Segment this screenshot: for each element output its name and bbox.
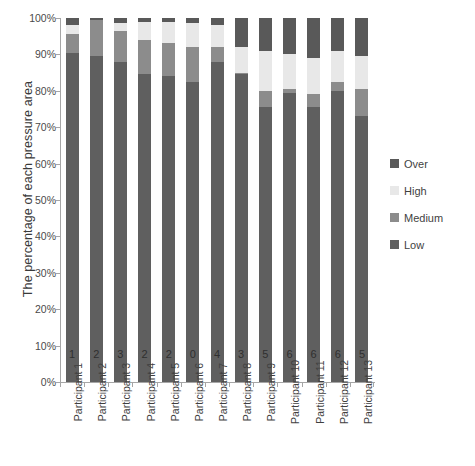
bar-column: 5	[253, 18, 277, 382]
bar-segment-high	[114, 23, 127, 30]
y-axis-tick-label: 30%	[35, 267, 56, 279]
stacked-bar[interactable]	[211, 18, 224, 382]
legend-swatch-icon	[390, 240, 399, 249]
bar-column: 2	[132, 18, 156, 382]
x-axis-label-cell: Participant 7	[205, 390, 229, 466]
bar-column: 5	[350, 18, 374, 382]
x-axis-label-cell: Participant 9	[253, 390, 277, 466]
stacked-bar[interactable]	[66, 18, 79, 382]
stacked-bar[interactable]	[162, 18, 175, 382]
bar-segment-over	[355, 18, 368, 56]
bar-segment-high	[355, 56, 368, 89]
legend-label: Low	[404, 239, 424, 251]
bar-segment-medium	[186, 47, 199, 82]
bar-value-label: 3	[238, 348, 244, 360]
stacked-bar[interactable]	[138, 18, 151, 382]
bar-segment-medium	[114, 31, 127, 62]
legend-swatch-icon	[390, 213, 399, 222]
bar-segment-low	[331, 91, 344, 382]
bar-segment-medium	[307, 94, 320, 107]
x-axis-label-cell: Participant 11	[302, 390, 326, 466]
bar-segment-high	[283, 54, 296, 89]
stacked-bar[interactable]	[283, 18, 296, 382]
x-axis-tick-label: Participant 12	[338, 360, 350, 424]
y-axis-tick-label: 50%	[35, 194, 56, 206]
legend-item-medium[interactable]: Medium	[390, 212, 470, 223]
stacked-bar[interactable]	[307, 18, 320, 382]
bar-segment-over	[307, 18, 320, 58]
bar-segment-medium	[211, 47, 224, 62]
y-axis-tick-label: 70%	[35, 121, 56, 133]
y-axis-tick-label: 0%	[41, 376, 56, 388]
bar-segment-low	[186, 82, 199, 382]
legend-item-low[interactable]: Low	[390, 239, 470, 250]
bar-segment-medium	[66, 34, 79, 52]
x-axis-tick-label: Participant 8	[241, 363, 253, 421]
stacked-bar[interactable]	[259, 18, 272, 382]
bar-segment-over	[259, 18, 272, 51]
x-axis-label-cell: Participant 13	[350, 390, 374, 466]
x-axis-label-cell: Participant 12	[326, 390, 350, 466]
x-axis-tick-label: Participant 4	[145, 363, 157, 421]
bar-segment-high	[211, 25, 224, 47]
bar-column: 3	[229, 18, 253, 382]
bar-segment-medium	[259, 91, 272, 107]
bar-segment-low	[162, 76, 175, 382]
bar-segment-medium	[162, 43, 175, 76]
bar-segment-medium	[355, 89, 368, 116]
bar-column: 2	[84, 18, 108, 382]
bar-segment-low	[138, 74, 151, 382]
bar-segment-low	[90, 56, 103, 382]
bar-column: 1	[60, 18, 84, 382]
x-axis-label-cell: Participant 8	[229, 390, 253, 466]
y-axis-tick-label: 40%	[35, 230, 56, 242]
bar-column: 2	[157, 18, 181, 382]
bar-segment-medium	[331, 82, 344, 91]
bar-segment-over	[66, 18, 79, 25]
bar-value-label: 6	[335, 348, 341, 360]
legend-item-over[interactable]: Over	[390, 158, 470, 169]
x-axis-label-cell: Participant 10	[277, 390, 301, 466]
x-axis-label-cell: Participant 3	[108, 390, 132, 466]
bar-value-label: 2	[141, 348, 147, 360]
bar-value-label: 2	[166, 348, 172, 360]
stacked-bar[interactable]	[235, 18, 248, 382]
y-axis-tick-label: 20%	[35, 303, 56, 315]
bar-value-label: 0	[190, 348, 196, 360]
bar-column: 4	[205, 18, 229, 382]
bar-value-label: 5	[359, 348, 365, 360]
bar-column: 0	[181, 18, 205, 382]
bar-group: 1232204356665	[60, 18, 374, 382]
bar-segment-low	[114, 62, 127, 382]
stacked-bar-chart: The percentage of each pressure area 100…	[0, 0, 475, 466]
bar-segment-over	[235, 18, 248, 47]
bar-segment-high	[138, 22, 151, 40]
x-axis-tick-label: Participant 7	[217, 363, 229, 421]
x-axis-label-cell: Participant 2	[84, 390, 108, 466]
legend-label: Medium	[404, 212, 443, 224]
x-axis-label-cell: Participant 5	[157, 390, 181, 466]
bar-segment-low	[211, 62, 224, 382]
legend-swatch-icon	[390, 186, 399, 195]
bar-segment-medium	[138, 40, 151, 75]
bar-column: 6	[277, 18, 301, 382]
stacked-bar[interactable]	[186, 18, 199, 382]
bar-value-label: 4	[214, 348, 220, 360]
bar-value-label: 6	[311, 348, 317, 360]
stacked-bar[interactable]	[90, 18, 103, 382]
stacked-bar[interactable]	[355, 18, 368, 382]
x-axis-tick-label: Participant 10	[289, 360, 301, 424]
bar-value-label: 2	[93, 348, 99, 360]
x-axis-tick-label: Participant 9	[265, 363, 277, 421]
legend-label: Over	[404, 158, 428, 170]
stacked-bar[interactable]	[114, 18, 127, 382]
stacked-bar[interactable]	[331, 18, 344, 382]
chart-legend: OverHighMediumLow	[390, 158, 470, 266]
bar-segment-high	[307, 58, 320, 94]
bar-segment-high	[66, 25, 79, 34]
legend-item-high[interactable]: High	[390, 185, 470, 196]
x-axis-label-cell: Participant 6	[181, 390, 205, 466]
bar-segment-high	[162, 22, 175, 44]
bar-value-label: 1	[69, 348, 75, 360]
legend-swatch-icon	[390, 159, 399, 168]
